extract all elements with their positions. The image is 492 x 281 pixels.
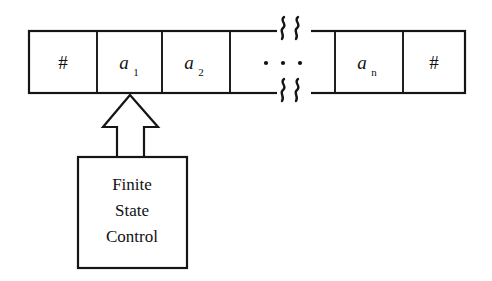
tape-cell-symbol-an: a <box>357 52 367 73</box>
ellipsis-dot-2 <box>281 61 285 65</box>
tape-cell-subscript-a1: 1 <box>133 66 139 78</box>
tape-cell-symbol-a2: a <box>184 52 194 73</box>
head-arrow-icon <box>103 95 158 157</box>
control-box-line-2: State <box>115 201 149 220</box>
tape-outline <box>29 31 465 93</box>
control-box-line-1: Finite <box>112 175 152 194</box>
diagram-canvas: # a 1 a 2 a n # Finite <box>0 0 492 281</box>
tape-cell-subscript-a2: 2 <box>198 66 204 78</box>
tape-cell-symbol-a1: a <box>119 52 129 73</box>
tape-cell-symbol-endmarker-left: # <box>58 52 68 73</box>
tape-cell-symbol-endmarker-right: # <box>429 52 439 73</box>
read-write-head <box>103 95 158 157</box>
input-tape: # a 1 a 2 a n # <box>29 17 465 101</box>
tape-cell-subscript-an: n <box>371 66 377 78</box>
ellipsis-dot-1 <box>264 61 268 65</box>
tape-break-top <box>277 17 311 39</box>
control-box-line-3: Control <box>106 227 158 246</box>
ellipsis-dot-3 <box>298 61 302 65</box>
finite-state-control: Finite State Control <box>78 157 187 268</box>
turing-machine-diagram: # a 1 a 2 a n # Finite <box>0 0 492 281</box>
